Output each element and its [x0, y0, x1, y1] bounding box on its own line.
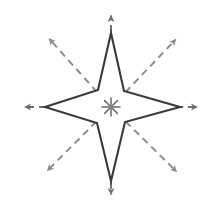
compass-star-figure: Four-pointed compass star with eight dir…	[0, 0, 214, 208]
compass-star-canvas	[0, 0, 214, 208]
